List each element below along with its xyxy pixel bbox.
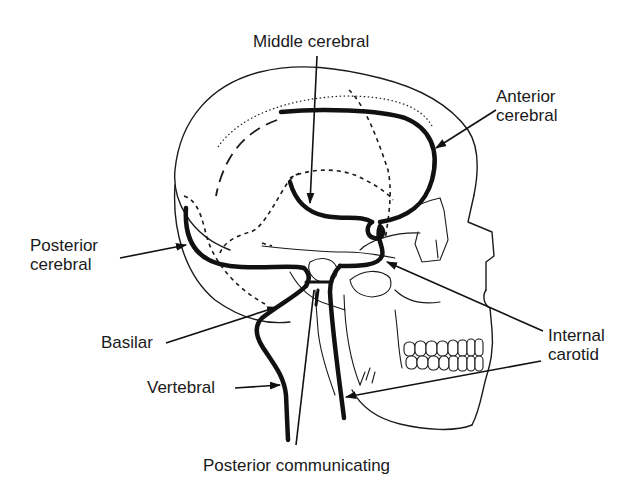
label-anterior-cerebral: Anterior cerebral — [496, 87, 557, 125]
label-middle-cerebral: Middle cerebral — [253, 32, 369, 51]
internal-carotid-artery — [330, 266, 344, 418]
teeth — [404, 339, 483, 371]
label-vertebral: Vertebral — [147, 378, 215, 397]
label-internal-carotid: Internal carotid — [548, 326, 605, 364]
middle-cerebral-leader — [310, 56, 317, 203]
carotid-siphon — [340, 222, 383, 266]
posterior-cerebral-leader — [120, 245, 186, 258]
label-posterior-communicating: Posterior communicating — [203, 456, 390, 475]
internal-carotid-leader-upper — [387, 262, 543, 331]
vertebral-leader — [235, 385, 280, 388]
arteries — [186, 110, 435, 440]
skull-outline — [175, 67, 494, 430]
middle-cerebral-artery — [290, 182, 372, 222]
label-basilar: Basilar — [101, 333, 153, 352]
label-posterior-cerebral: Posterior cerebral — [30, 236, 98, 274]
posterior-cerebral-artery — [186, 208, 309, 286]
posterior-communicating-leader — [296, 290, 314, 445]
anterior-cerebral-leader — [436, 110, 496, 148]
